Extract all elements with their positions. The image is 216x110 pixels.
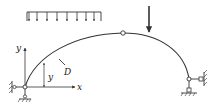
left-support <box>9 81 31 102</box>
point-D-marker <box>59 59 65 65</box>
label-D: D <box>63 67 71 77</box>
label-x-axis: x <box>77 82 82 92</box>
right-support <box>181 70 207 96</box>
distributed-load <box>27 12 101 21</box>
label-y-axis: y <box>15 43 22 53</box>
arch-diagram: D y x y <box>0 0 216 110</box>
crown-hinge <box>121 31 125 35</box>
label-y-dimension: y <box>47 72 54 82</box>
